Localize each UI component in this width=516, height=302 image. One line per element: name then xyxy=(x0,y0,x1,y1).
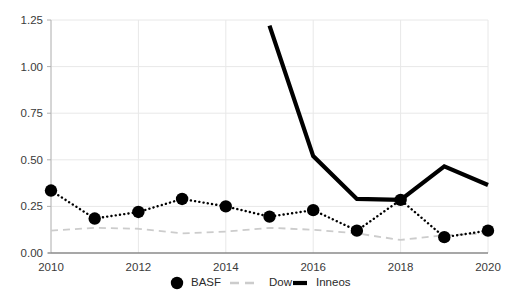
data-point-basf xyxy=(132,206,144,218)
chart-legend: BASFDowInneos xyxy=(171,276,351,289)
y-axis-tick-label: 0.50 xyxy=(21,154,43,166)
data-point-basf xyxy=(176,193,188,205)
y-axis-tick-label: 0.75 xyxy=(21,107,43,119)
x-axis-tick-label: 2010 xyxy=(38,261,64,273)
data-point-basf xyxy=(438,231,450,243)
y-axis-tick-labels: 0.000.250.500.751.001.25 xyxy=(21,14,43,259)
x-axis-tick-label: 2018 xyxy=(388,261,414,273)
y-axis-tick-label: 1.25 xyxy=(21,14,43,26)
x-axis-tick-label: 2020 xyxy=(475,261,501,273)
data-series-layer xyxy=(45,26,494,244)
x-axis-tick-labels: 201020122014201620182020 xyxy=(38,261,501,273)
y-axis-tick-label: 1.00 xyxy=(21,61,43,73)
chart-container: 0.000.250.500.751.001.25 201020122014201… xyxy=(0,0,516,302)
data-point-basf xyxy=(307,204,319,216)
data-point-basf xyxy=(351,224,363,236)
data-point-basf xyxy=(263,210,275,222)
data-point-basf xyxy=(394,194,406,206)
data-point-basf xyxy=(89,212,101,224)
x-axis-tick-label: 2014 xyxy=(213,261,239,273)
y-axis-tick-label: 0.00 xyxy=(21,247,43,259)
data-point-basf xyxy=(45,184,57,196)
x-axis-tick-label: 2012 xyxy=(126,261,152,273)
legend-label-basf: BASF xyxy=(191,276,221,288)
legend-marker-basf xyxy=(171,277,183,289)
line-chart: 0.000.250.500.751.001.25 201020122014201… xyxy=(0,0,516,302)
data-point-basf xyxy=(220,200,232,212)
legend-label-dow: Dow xyxy=(269,276,293,288)
x-axis-tick-label: 2016 xyxy=(300,261,326,273)
series-line-dow xyxy=(51,228,488,240)
data-point-basf xyxy=(482,224,494,236)
y-axis-tick-label: 0.25 xyxy=(21,200,43,212)
legend-label-inneos: Inneos xyxy=(316,276,351,288)
